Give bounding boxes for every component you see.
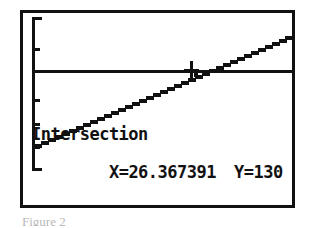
- x-value: 26.367391: [128, 162, 216, 182]
- constant-line: [32, 70, 292, 73]
- intersection-readout: Intersection X=26.367391Y=130: [31, 125, 288, 201]
- readout-title: Intersection: [31, 125, 288, 144]
- calculator-screen: Intersection X=26.367391Y=130: [20, 10, 295, 208]
- intersection-cursor: [184, 61, 199, 81]
- x-label: X=: [109, 162, 128, 182]
- y-label: Y=: [234, 162, 253, 182]
- figure-caption: Figure 2: [22, 214, 66, 226]
- calculator-viewport: Intersection X=26.367391Y=130: [23, 13, 292, 205]
- cursor-dot: [194, 73, 198, 77]
- cursor-horizontal-bar: [184, 69, 199, 72]
- y-value: 130: [253, 162, 282, 182]
- readout-coordinates: X=26.367391Y=130: [31, 144, 288, 201]
